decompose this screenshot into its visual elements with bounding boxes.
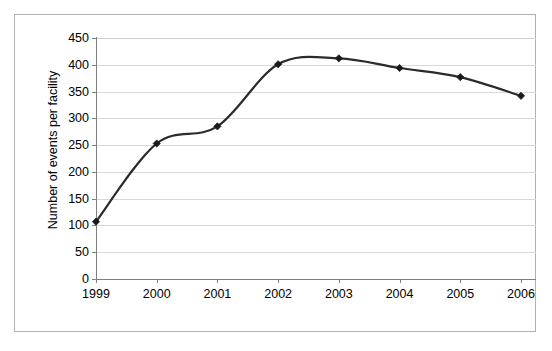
y-tick-label: 250 <box>68 138 89 152</box>
x-tick-mark <box>96 279 97 283</box>
x-tick-label: 2004 <box>386 287 414 301</box>
x-tick-mark <box>400 279 401 283</box>
chart-figure: Number of events per facility 0501001502… <box>0 0 552 351</box>
y-tick-label: 0 <box>82 272 89 286</box>
y-axis-title: Number of events per facility <box>46 50 60 250</box>
x-tick-mark <box>157 279 158 283</box>
chart-frame: Number of events per facility 0501001502… <box>14 14 536 332</box>
x-axis-line <box>96 279 536 280</box>
x-tick-mark <box>521 279 522 283</box>
y-tick-label: 100 <box>68 218 89 232</box>
data-point-marker: 2005: 377 <box>457 73 464 80</box>
x-tick-mark <box>278 279 279 283</box>
x-tick-label: 1999 <box>82 287 110 301</box>
x-tick-mark <box>217 279 218 283</box>
data-point-marker: 2003: 412 <box>335 55 342 62</box>
y-tick-label: 300 <box>68 111 89 125</box>
x-tick-label: 2003 <box>325 287 353 301</box>
data-point-marker: 2004: 394 <box>396 64 403 71</box>
series-path <box>96 57 521 222</box>
y-tick-label: 400 <box>68 58 89 72</box>
y-tick-label: 50 <box>75 245 89 259</box>
x-tick-label: 2005 <box>446 287 474 301</box>
x-tick-label: 2000 <box>143 287 171 301</box>
x-tick-label: 2006 <box>507 287 535 301</box>
y-tick-label: 150 <box>68 192 89 206</box>
series-markers: 1999: 1072000: 2532001: 2852002: 4012003… <box>92 55 524 226</box>
plot-area: 050100150200250300350400450 199920002001… <box>96 38 536 279</box>
x-tick-label: 2001 <box>204 287 232 301</box>
data-point-marker: 2006: 342 <box>517 92 524 99</box>
y-tick-label: 450 <box>68 31 89 45</box>
y-tick-label: 200 <box>68 165 89 179</box>
x-tick-label: 2002 <box>264 287 292 301</box>
x-tick-mark <box>460 279 461 283</box>
data-series-line: 1999: 1072000: 2532001: 2852002: 4012003… <box>96 38 536 279</box>
y-tick-label: 350 <box>68 85 89 99</box>
x-tick-mark <box>339 279 340 283</box>
